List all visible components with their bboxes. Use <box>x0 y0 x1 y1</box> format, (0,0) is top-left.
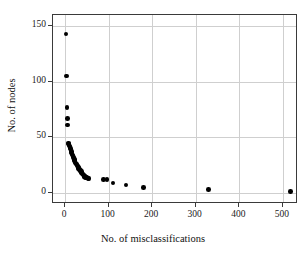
x-tick-mark <box>64 203 65 207</box>
plot-area <box>52 14 297 203</box>
gridline-horizontal <box>53 193 296 194</box>
x-tick-mark <box>195 203 196 207</box>
data-point <box>64 32 69 37</box>
data-point <box>141 185 146 190</box>
data-point <box>111 181 116 186</box>
gridline-vertical <box>239 15 240 202</box>
y-tick-mark <box>48 25 52 26</box>
gridline-vertical <box>196 15 197 202</box>
y-tick-mark <box>48 81 52 82</box>
x-tick-label: 0 <box>62 210 67 220</box>
data-point <box>87 176 92 181</box>
gridline-vertical <box>283 15 284 202</box>
x-tick-mark <box>151 203 152 207</box>
x-tick-label: 300 <box>188 210 202 220</box>
x-tick-mark <box>238 203 239 207</box>
x-tick-mark <box>108 203 109 207</box>
y-tick-label: 150 <box>32 20 46 30</box>
data-point <box>65 116 70 121</box>
x-tick-label: 100 <box>101 210 115 220</box>
y-tick-mark <box>48 136 52 137</box>
gridline-horizontal <box>53 82 296 83</box>
x-tick-label: 400 <box>231 210 245 220</box>
data-point <box>65 105 70 110</box>
y-tick-mark <box>48 192 52 193</box>
x-axis-label: No. of misclassifications <box>0 233 306 244</box>
x-tick-label: 500 <box>275 210 289 220</box>
gridline-vertical <box>152 15 153 202</box>
gridline-vertical <box>109 15 110 202</box>
data-point <box>124 183 129 188</box>
y-tick-label: 0 <box>41 187 46 197</box>
x-tick-mark <box>282 203 283 207</box>
data-point <box>288 189 293 194</box>
gridline-horizontal <box>53 26 296 27</box>
x-tick-label: 200 <box>144 210 158 220</box>
y-axis-label: No. of nodes <box>6 61 17 151</box>
y-tick-label: 100 <box>32 76 46 86</box>
y-tick-label: 50 <box>37 132 47 142</box>
data-point <box>206 187 211 192</box>
scatter-plot-figure: 0100200300400500050100150 No. of misclas… <box>0 0 306 262</box>
data-point <box>105 177 110 182</box>
data-point <box>64 74 69 79</box>
data-point <box>65 123 70 128</box>
gridline-horizontal <box>53 137 296 138</box>
